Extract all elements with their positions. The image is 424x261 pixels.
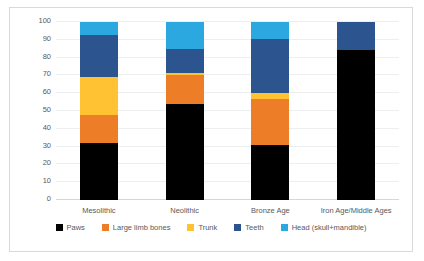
bar-segment[interactable]: [80, 115, 118, 143]
bar-segment[interactable]: [80, 77, 118, 114]
bar-segment[interactable]: [80, 35, 118, 77]
bar-segment[interactable]: [337, 50, 375, 200]
bar-segment[interactable]: [251, 93, 289, 99]
legend-item[interactable]: Trunk: [187, 223, 217, 232]
legend-item[interactable]: Teeth: [234, 223, 263, 232]
y-axis-tick-label: 70: [43, 69, 51, 78]
bar-group[interactable]: Neolithic: [142, 22, 228, 200]
y-axis-tick-label: 20: [43, 158, 51, 167]
bar-group[interactable]: Bronze Age: [228, 22, 314, 200]
bar-segment[interactable]: [166, 75, 204, 103]
legend-item[interactable]: Paws: [56, 223, 85, 232]
legend-swatch-icon: [56, 224, 63, 231]
legend-swatch-icon: [234, 224, 241, 231]
x-axis-tick-label: Bronze Age: [251, 206, 290, 215]
bar-segment[interactable]: [80, 22, 118, 35]
bar-stack[interactable]: [80, 22, 118, 200]
bar-segment[interactable]: [166, 104, 204, 200]
bar-segment[interactable]: [166, 49, 204, 73]
bar-segment[interactable]: [166, 73, 204, 76]
y-axis-tick-label: 10: [43, 176, 51, 185]
bar-segment[interactable]: [251, 145, 289, 200]
bar-segment[interactable]: [337, 22, 375, 50]
legend-swatch-icon: [281, 224, 288, 231]
x-axis-tick-label: Iron Age/Middle Ages: [321, 206, 392, 215]
chart-card: % bone fragments (NISP) 0102030405060708…: [9, 7, 413, 252]
bar-segment[interactable]: [251, 39, 289, 93]
bar-stack[interactable]: [166, 22, 204, 200]
x-axis-tick-label: Mesolithic: [82, 206, 115, 215]
bar-segment[interactable]: [166, 22, 204, 49]
bar-stack[interactable]: [251, 22, 289, 200]
legend-swatch-icon: [187, 224, 194, 231]
y-axis-title: % bone fragments (NISP): [25, 0, 39, 34]
legend-item[interactable]: Head (skull+mandible): [281, 223, 367, 232]
legend-label: Trunk: [198, 223, 217, 232]
y-axis-tick-label: 40: [43, 123, 51, 132]
legend-item[interactable]: Large limb bones: [102, 223, 171, 232]
y-axis-tick-label: 80: [43, 52, 51, 61]
legend-label: Teeth: [245, 223, 263, 232]
y-axis-tick-label: 100: [38, 16, 51, 25]
bar-group[interactable]: Iron Age/Middle Ages: [313, 22, 399, 200]
legend-label: Head (skull+mandible): [292, 223, 367, 232]
y-axis-tick-label: 60: [43, 87, 51, 96]
bar-group[interactable]: Mesolithic: [56, 22, 142, 200]
legend-swatch-icon: [102, 224, 109, 231]
bar-stack[interactable]: [337, 22, 375, 200]
y-axis-tick-label: 50: [43, 105, 51, 114]
y-axis-tick-label: 0: [47, 194, 51, 203]
chart-legend: PawsLarge limb bonesTrunkTeethHead (skul…: [10, 223, 412, 232]
legend-label: Paws: [67, 223, 85, 232]
legend-label: Large limb bones: [113, 223, 171, 232]
bar-segment[interactable]: [251, 99, 289, 144]
y-axis-tick-label: 90: [43, 34, 51, 43]
bar-segment[interactable]: [251, 22, 289, 39]
plot-area: % bone fragments (NISP) 0102030405060708…: [56, 22, 399, 200]
y-axis-tick-label: 30: [43, 141, 51, 150]
x-axis-tick-label: Neolithic: [170, 206, 199, 215]
bar-segment[interactable]: [80, 143, 118, 200]
